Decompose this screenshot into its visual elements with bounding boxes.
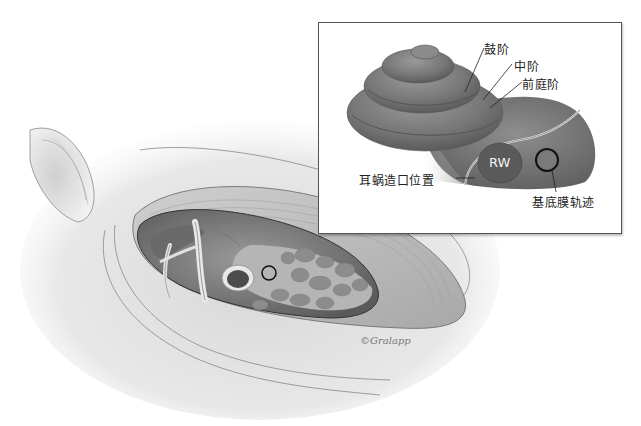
label-basilar-membrane-track: 基底膜轨迹 [532,193,595,210]
label-scala-tympani: 鼓阶 [484,40,509,57]
label-cochleostomy-site: 耳蜗造口位置 [359,171,434,188]
cochlea-inset-drawing [0,0,641,426]
label-scala-vestibuli: 前庭阶 [522,75,560,92]
cochlea-spiral [347,45,503,151]
label-round-window: RW [489,155,510,170]
illustration-stage: ©Gralapp [0,0,641,426]
basilar-membrane-track-circle [536,149,558,171]
label-scala-media: 中阶 [514,57,539,74]
